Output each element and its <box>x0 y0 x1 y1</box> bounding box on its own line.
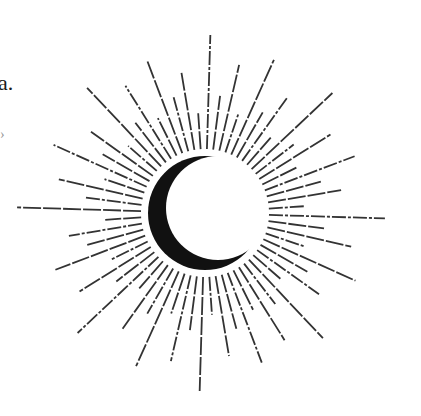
sun-ray <box>239 267 285 340</box>
sun-ray <box>112 241 148 259</box>
sun-ray <box>263 239 355 280</box>
sun-ray <box>213 96 220 150</box>
sun-ray <box>198 113 200 149</box>
sun-ray <box>219 65 239 151</box>
sun-ray <box>158 118 177 156</box>
crescent-moon-icon <box>148 156 262 270</box>
sun-ray <box>233 270 253 309</box>
sun-ray <box>268 190 341 202</box>
sun-ray <box>262 167 298 185</box>
sun-ray <box>267 227 351 246</box>
sun-ray <box>216 276 229 356</box>
crescent-sunburst-illustration <box>0 0 421 416</box>
sun-ray <box>190 276 197 330</box>
sun-ray <box>257 250 319 294</box>
sun-ray <box>123 265 168 329</box>
sun-ray <box>249 260 323 339</box>
sun-ray <box>225 114 238 152</box>
sun-ray <box>105 217 141 219</box>
sun-ray <box>69 224 142 236</box>
sun-ray <box>269 215 385 218</box>
sun-ray <box>259 135 330 180</box>
sun-ray <box>200 277 203 391</box>
sun-ray <box>91 132 153 176</box>
sun-ray <box>181 71 194 150</box>
sun-ray <box>247 138 271 165</box>
sun-ray <box>139 261 163 288</box>
sun-ray <box>252 93 333 169</box>
sun-ray <box>86 198 142 205</box>
sun-ray <box>268 221 324 228</box>
sun-ray <box>59 179 143 198</box>
sun-ray <box>242 97 287 161</box>
sun-ray <box>171 275 191 361</box>
sun-ray <box>253 255 280 279</box>
sun-ray <box>209 277 212 315</box>
sun-ray <box>269 206 305 208</box>
sun-ray <box>17 207 141 211</box>
sun-ray <box>80 247 151 292</box>
sun-ray <box>207 35 210 149</box>
sun-ray <box>125 86 171 159</box>
